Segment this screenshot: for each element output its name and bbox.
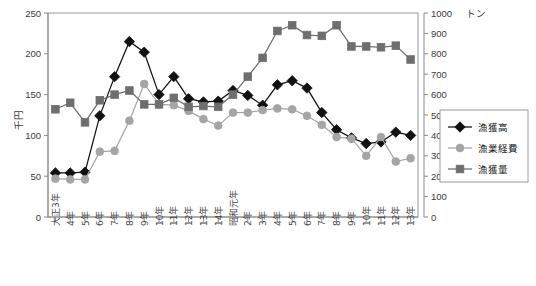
data-point xyxy=(81,119,89,127)
right-axis-tick-label: 1000 xyxy=(431,8,452,19)
x-axis-tick-label: 2年 xyxy=(242,211,253,226)
data-point xyxy=(111,147,119,155)
x-axis-tick-label: 3年 xyxy=(257,211,268,226)
data-point xyxy=(274,105,282,113)
data-point xyxy=(377,43,385,51)
data-point xyxy=(95,111,105,121)
left-axis-title: 千円 xyxy=(13,110,24,130)
left-axis-tick-label: 0 xyxy=(36,212,41,223)
data-point xyxy=(272,80,282,90)
x-axis-tick-label: 8年 xyxy=(331,211,342,226)
data-point xyxy=(405,130,415,140)
data-point xyxy=(109,71,119,81)
data-point xyxy=(185,103,193,111)
data-point xyxy=(259,106,267,114)
data-point xyxy=(333,133,341,141)
legend-swatch-marker xyxy=(456,165,464,173)
data-point xyxy=(288,105,296,113)
data-point xyxy=(302,83,312,93)
series-line xyxy=(55,42,410,173)
data-point xyxy=(96,148,104,156)
left-axis-tick-label: 150 xyxy=(25,89,41,100)
right-axis-tick-label: 900 xyxy=(431,28,447,39)
left-axis-tick-label: 200 xyxy=(25,48,41,59)
data-point xyxy=(111,91,119,99)
right-axis-tick-label: 700 xyxy=(431,69,447,80)
data-point xyxy=(362,43,370,51)
data-point xyxy=(214,103,222,111)
data-point xyxy=(229,109,237,117)
data-point xyxy=(259,54,267,62)
data-point xyxy=(200,102,208,110)
data-point xyxy=(96,97,104,105)
legend: 漁獲高漁業経費漁獲量 xyxy=(440,110,528,182)
data-point xyxy=(333,21,341,29)
chart-canvas: 0501001502002500100200300400500600700800… xyxy=(0,0,536,286)
legend-item-2[interactable]: 漁業経費 xyxy=(448,143,518,154)
left-axis-tick-label: 100 xyxy=(25,130,41,141)
x-axis-tick-label: 13年 xyxy=(198,206,209,226)
x-axis-tick-label: 4年 xyxy=(65,211,76,226)
x-axis-tick-label: 9年 xyxy=(346,211,357,226)
data-point xyxy=(407,154,415,162)
x-axis-tick-label: 12年 xyxy=(390,206,401,226)
x-axis-tick-label: 6年 xyxy=(94,211,105,226)
legend-item-label: 漁獲量 xyxy=(478,164,508,175)
right-axis-tick-label: 0 xyxy=(431,212,436,223)
x-axis-tick-label: 5年 xyxy=(80,211,91,226)
right-axis-tick-label: 600 xyxy=(431,89,447,100)
x-axis-tick-label: 10年 xyxy=(154,206,165,226)
data-point xyxy=(318,32,326,40)
x-axis-tick-label: 11年 xyxy=(376,206,387,226)
data-point xyxy=(244,73,252,81)
data-point xyxy=(214,122,222,130)
data-point xyxy=(287,76,297,86)
x-axis-tick-label: 7年 xyxy=(109,211,120,226)
data-point xyxy=(348,43,356,51)
left-axis-tick-label: 50 xyxy=(30,171,41,182)
data-point xyxy=(183,93,193,103)
right-axis-tick-label: 100 xyxy=(431,191,447,202)
data-point xyxy=(361,138,371,148)
x-axis-tick-label: 13年 xyxy=(405,206,416,226)
x-axis-tick-label: 6年 xyxy=(302,211,313,226)
legend-item-3[interactable]: 漁獲量 xyxy=(448,164,508,175)
legend-swatch-marker xyxy=(456,144,464,152)
x-axis-tick-label: 大正3年 xyxy=(50,193,61,226)
data-point xyxy=(52,175,60,183)
data-point xyxy=(125,117,133,125)
legend-item-label: 漁獲高 xyxy=(478,122,508,133)
x-axis-tick-label: 12年 xyxy=(183,206,194,226)
data-point xyxy=(140,80,148,88)
data-point xyxy=(126,87,134,95)
x-axis-tick-label: 7年 xyxy=(316,211,327,226)
data-point xyxy=(243,90,253,100)
data-point xyxy=(52,105,60,113)
data-point xyxy=(244,109,252,117)
data-point xyxy=(229,91,237,99)
data-point xyxy=(170,94,178,102)
x-axis-tick-label: 5年 xyxy=(287,211,298,226)
x-axis-tick-label: 昭和元年 xyxy=(228,190,239,226)
data-point xyxy=(274,27,282,35)
left-axis-tick-label: 250 xyxy=(25,8,41,19)
data-point xyxy=(200,115,208,123)
x-axis-tick-label: 8年 xyxy=(124,211,135,226)
data-point xyxy=(377,133,385,141)
data-point xyxy=(139,47,149,57)
data-point xyxy=(66,176,74,184)
series-1 xyxy=(50,36,416,178)
data-point xyxy=(348,135,356,143)
x-axis-tick-label: 4年 xyxy=(272,211,283,226)
x-axis-tick-label: 9年 xyxy=(139,211,150,226)
data-point xyxy=(392,42,400,50)
data-point xyxy=(318,121,326,129)
x-axis-tick-label: 14年 xyxy=(213,206,224,226)
data-point xyxy=(66,99,74,107)
data-point xyxy=(392,158,400,166)
data-point xyxy=(362,152,370,160)
data-point xyxy=(124,36,134,46)
chart-figure: 0501001502002500100200300400500600700800… xyxy=(0,0,536,286)
right-axis-unit-label: トン xyxy=(466,8,486,19)
x-axis-tick-label: 11年 xyxy=(168,206,179,226)
